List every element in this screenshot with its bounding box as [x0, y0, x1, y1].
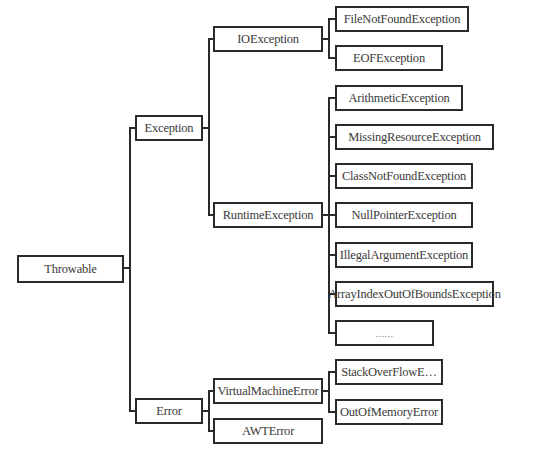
- node-awterror: AWTError: [213, 418, 323, 444]
- connector: [328, 18, 330, 59]
- connector: [328, 371, 330, 413]
- node-arithmeticexception: ArithmeticException: [335, 85, 463, 111]
- node-throwable: Throwable: [17, 255, 124, 283]
- node-stackoverflowerror: StackOverFlowE…: [335, 359, 443, 385]
- node-outofmemoryerror: OutOfMemoryError: [335, 399, 443, 425]
- node-runtimeexception: RuntimeException: [213, 202, 323, 228]
- node-ioexception: IOException: [213, 26, 323, 52]
- node-filenotfoundexception: FileNotFoundException: [335, 6, 469, 32]
- node-eofexception: EOFException: [335, 45, 443, 71]
- connector: [208, 390, 210, 432]
- node-classnotfoundexception: ClassNotFoundException: [335, 163, 473, 189]
- node-error: Error: [135, 398, 203, 424]
- node-illegalargumentexception: IllegalArgumentException: [335, 242, 473, 268]
- node-missingresourceexception: MissingResourceException: [335, 124, 494, 150]
- connector: [208, 38, 210, 216]
- node-more-ellipsis: ......: [335, 320, 434, 346]
- node-exception: Exception: [135, 115, 203, 141]
- class-hierarchy-diagram: Throwable Exception Error IOException Ru…: [0, 0, 540, 456]
- connector: [129, 127, 131, 412]
- node-virtualmachineerror: VirtualMachineError: [213, 378, 323, 404]
- node-arrayindexoutofboundsexception: ArrayIndexOutOfBoundsException: [335, 281, 494, 307]
- node-nullpointerexception: NullPointerException: [335, 202, 473, 228]
